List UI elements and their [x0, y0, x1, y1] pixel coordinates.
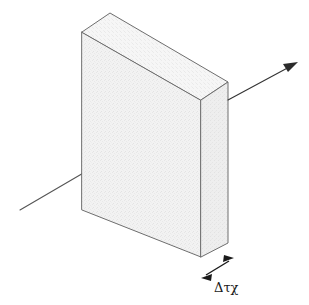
- emergent-ray: [228, 65, 293, 100]
- thickness-dimension-line: [206, 261, 229, 275]
- thickness-label: Δτχ: [214, 280, 239, 295]
- diagram-canvas: Δτχ: [0, 0, 309, 305]
- slab-diagram-svg: Δτχ: [0, 0, 309, 305]
- emergent-ray-arrowhead-icon: [283, 62, 298, 72]
- slab-right-side-face: [201, 82, 228, 257]
